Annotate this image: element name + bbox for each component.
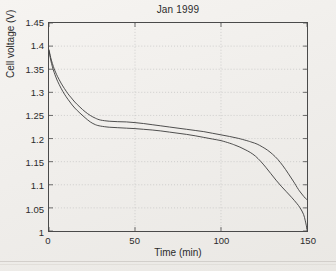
x-tick-label: 100 <box>213 235 229 246</box>
y-tick-label: 1.2 <box>6 133 48 144</box>
y-tick-label: 1.45 <box>6 17 48 28</box>
y-tick-label: 1.35 <box>6 63 48 74</box>
y-axis-tick-labels: 11.051.11.151.21.251.31.351.41.45 <box>0 22 48 232</box>
x-tick-label: 150 <box>300 235 316 246</box>
x-tick-label: 0 <box>45 235 50 246</box>
scan-artifact-line <box>0 264 336 265</box>
y-tick-label: 1.1 <box>6 180 48 191</box>
chart-title: Jan 1999 <box>48 4 308 15</box>
y-tick-label: 1.05 <box>6 203 48 214</box>
y-tick-label: 1.15 <box>6 157 48 168</box>
upper-discharge-curve <box>49 50 307 200</box>
x-axis-tick-labels: 050100150 <box>48 232 308 248</box>
x-tick-label: 50 <box>129 235 140 246</box>
plot-area <box>48 22 308 232</box>
data-curves <box>49 23 307 231</box>
figure-canvas: Jan 1999 Cell voltage (V) 11.051.11.151.… <box>0 0 336 271</box>
x-axis-label: Time (min) <box>48 247 308 258</box>
y-tick-label: 1.25 <box>6 110 48 121</box>
y-tick-label: 1 <box>6 227 48 238</box>
y-tick-label: 1.3 <box>6 87 48 98</box>
scan-artifact-line <box>0 261 336 262</box>
lower-discharge-curve <box>49 51 307 229</box>
y-tick-label: 1.4 <box>6 40 48 51</box>
